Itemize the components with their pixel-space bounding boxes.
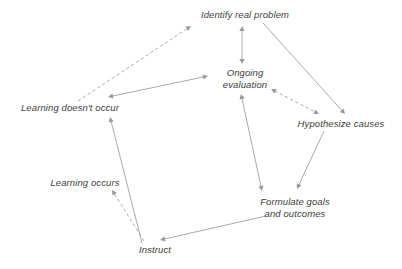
node-identify-real-problem[interactable]: Identify real problem bbox=[201, 9, 289, 21]
node-ongoing-evaluation[interactable]: Ongoingevaluation bbox=[223, 67, 267, 91]
edge-ongoing-evaluation-to-formulate-goals bbox=[242, 98, 261, 187]
node-label-line: Learning occurs bbox=[50, 177, 119, 189]
edge-identify-real-problem-to-hypothesize-causes bbox=[263, 23, 342, 111]
edge-line-identify-real-problem-to-hypothesize-causes bbox=[263, 23, 342, 111]
edge-line-formulate-goals-to-instruct bbox=[164, 216, 266, 239]
edge-ongoing-evaluation-to-learning-doesnt-occur bbox=[112, 77, 204, 96]
arrowhead-end-identify-real-problem-to-ongoing-evaluation bbox=[239, 59, 244, 64]
diagram-edges-layer bbox=[0, 0, 402, 269]
node-formulate-goals-and-outcomes[interactable]: Formulate goalsand outcomes bbox=[260, 196, 330, 220]
arrowhead-end-ongoing-evaluation-to-formulate-goals bbox=[258, 186, 263, 191]
node-learning-doesnt-occur[interactable]: Learning doesn't occur bbox=[21, 102, 119, 114]
arrowhead-end-instruct-to-learning-doesnt-occur bbox=[109, 117, 114, 122]
node-label-line: Formulate goals bbox=[260, 196, 330, 208]
node-label-line: Instruct bbox=[139, 244, 171, 256]
arrowhead-end-formulate-goals-to-instruct bbox=[160, 236, 165, 241]
edge-line-learning-doesnt-occur-to-identify-real-problem bbox=[78, 28, 188, 101]
node-learning-occurs[interactable]: Learning occurs bbox=[50, 177, 119, 189]
node-label-line: Hypothesize causes bbox=[298, 118, 385, 130]
arrowhead-end-ongoing-evaluation-to-hypothesize-causes bbox=[313, 109, 319, 114]
edge-line-instruct-to-learning-occurs bbox=[114, 194, 144, 241]
arrowhead-start-identify-real-problem-to-ongoing-evaluation bbox=[239, 26, 244, 31]
node-label-line: Learning doesn't occur bbox=[21, 102, 119, 114]
arrowhead-end-instruct-to-learning-occurs bbox=[112, 190, 117, 196]
edge-formulate-goals-to-instruct bbox=[164, 216, 266, 239]
edge-instruct-to-learning-occurs bbox=[114, 194, 144, 241]
node-label-line: and outcomes bbox=[260, 208, 330, 220]
arrowhead-end-learning-doesnt-occur-to-identify-real-problem bbox=[185, 26, 191, 31]
node-instruct[interactable]: Instruct bbox=[139, 244, 171, 256]
diagram-canvas: Identify real problemOngoingevaluationHy… bbox=[0, 0, 402, 269]
edge-hypothesize-causes-to-formulate-goals bbox=[299, 131, 324, 185]
edge-line-hypothesize-causes-to-formulate-goals bbox=[299, 131, 324, 185]
node-label-line: Ongoing bbox=[223, 67, 267, 79]
edge-ongoing-evaluation-to-hypothesize-causes bbox=[275, 91, 316, 112]
arrowhead-start-ongoing-evaluation-to-formulate-goals bbox=[240, 94, 245, 99]
arrowhead-end-ongoing-evaluation-to-learning-doesnt-occur bbox=[108, 93, 113, 98]
node-label-line: Identify real problem bbox=[201, 9, 289, 21]
node-label-line: evaluation bbox=[223, 79, 267, 91]
edge-learning-doesnt-occur-to-identify-real-problem bbox=[78, 28, 188, 101]
edge-line-ongoing-evaluation-to-hypothesize-causes bbox=[275, 91, 316, 112]
edge-line-ongoing-evaluation-to-learning-doesnt-occur bbox=[112, 77, 204, 96]
arrowhead-start-ongoing-evaluation-to-learning-doesnt-occur bbox=[203, 74, 208, 79]
node-hypothesize-causes[interactable]: Hypothesize causes bbox=[298, 118, 385, 130]
edge-line-ongoing-evaluation-to-formulate-goals bbox=[242, 98, 261, 187]
